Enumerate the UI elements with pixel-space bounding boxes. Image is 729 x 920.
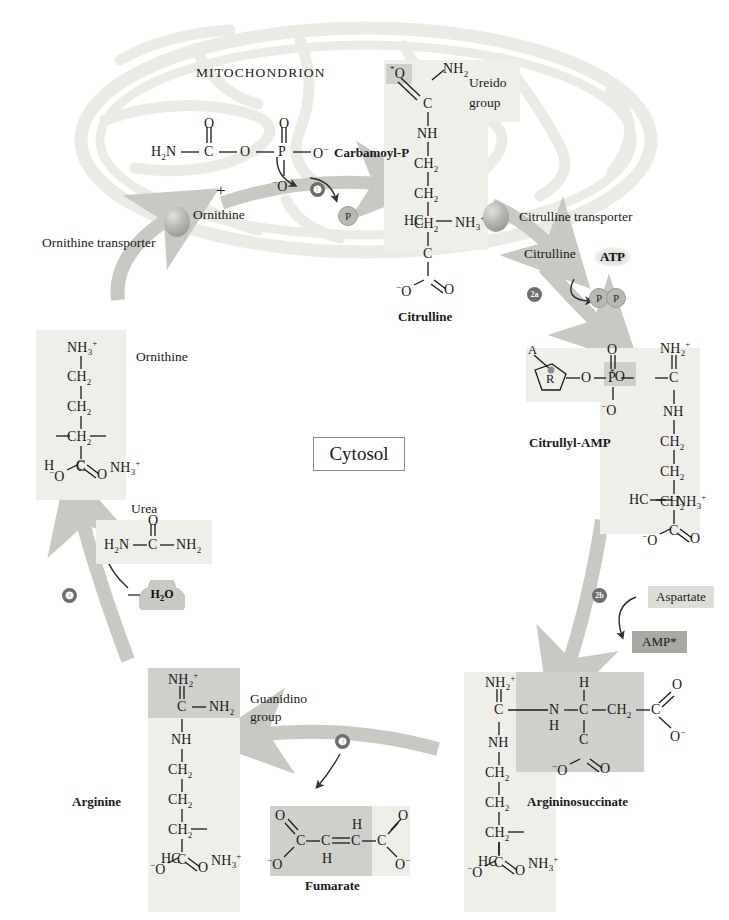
ornithine-nh3-plus-alpha: NH3+ [110,459,141,477]
ornithine-cytosol-label: Ornithine [136,350,188,364]
ornithine-ch2-c: CH2 [67,430,92,447]
ornithine-o-double: O [97,468,107,482]
ornithine-nh3-plus-top: NH3+ [67,339,98,357]
ornithine-c-cooh: C [76,460,86,474]
ornithine-ch2-a: CH2 [67,370,92,387]
ornithine-ch2-b: CH2 [67,400,92,417]
ornithine-o-minus: −O [49,468,65,484]
urea-cycle-figure: MITOCHONDRION Cytosol H2N C O P O− O O −… [0,0,729,920]
